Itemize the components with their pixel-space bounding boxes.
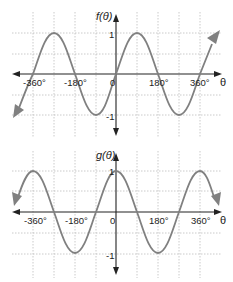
x-axis-label: θ	[220, 76, 226, 88]
chart-g-theta: g(θ) θ -360° -180° 0 180° 360° 1 -1	[0, 141, 233, 282]
tick-one: 1	[109, 166, 114, 177]
chart-f-theta: f(θ) θ -360° -180° 0 180° 360° 1 -1	[0, 0, 233, 141]
tick-pos360: 360°	[190, 77, 210, 88]
tick-one: 1	[109, 29, 114, 40]
tick-zero: 0	[110, 215, 115, 226]
x-axis-label: θ	[220, 214, 226, 226]
tick-neg360: -360°	[24, 215, 47, 226]
y-axis-label: f(θ)	[96, 10, 113, 22]
tick-pos180: 180°	[149, 77, 169, 88]
tick-pos360: 360°	[191, 215, 211, 226]
tick-negone: -1	[106, 250, 114, 261]
chart-f-svg: f(θ) θ -360° -180° 0 180° 360° 1 -1	[0, 0, 233, 141]
curve-arrow-left	[12, 192, 22, 206]
tick-pos180: 180°	[149, 215, 169, 226]
tick-negone: -1	[106, 111, 114, 122]
tick-neg180: -180°	[64, 77, 87, 88]
tick-neg360: -360°	[23, 77, 46, 88]
chart-g-svg: g(θ) θ -360° -180° 0 180° 360° 1 -1	[0, 141, 233, 282]
curve-arrow-left	[13, 104, 24, 118]
tick-neg180: -180°	[65, 215, 88, 226]
curve-arrow-right	[207, 30, 220, 44]
tick-zero: 0	[110, 77, 115, 88]
y-axis-label: g(θ)	[96, 149, 116, 161]
